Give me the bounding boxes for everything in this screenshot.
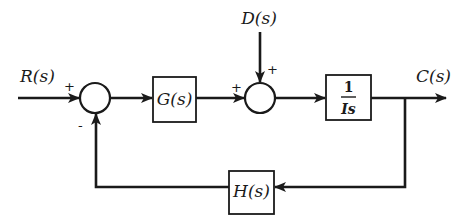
summing-junction-1 bbox=[80, 83, 110, 113]
input-signal-label: R(s) bbox=[19, 66, 55, 86]
plant-denominator: Is bbox=[340, 101, 356, 117]
summing-junction-2 bbox=[245, 83, 275, 113]
junction2-top-plus-sign: + bbox=[267, 62, 278, 77]
junction2-left-plus-sign: + bbox=[231, 80, 242, 95]
junction1-minus-sign: - bbox=[78, 118, 83, 133]
plant-numerator: 1 bbox=[344, 79, 354, 95]
controller-label: G(s) bbox=[157, 89, 193, 109]
block-diagram: R(s) + - G(s) + D(s) + 1 Is C(s) H(s) bbox=[0, 0, 460, 222]
junction1-plus-sign: + bbox=[64, 79, 75, 94]
disturbance-signal-label: D(s) bbox=[240, 8, 277, 28]
feedback-return-path bbox=[96, 114, 229, 187]
feedback-label: H(s) bbox=[232, 181, 270, 201]
output-signal-label: C(s) bbox=[416, 66, 451, 86]
